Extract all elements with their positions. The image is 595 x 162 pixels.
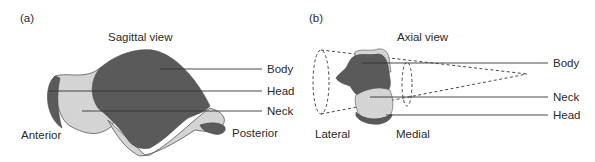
panel-b-tag: (b) xyxy=(309,13,323,25)
panel-b-label-head: Head xyxy=(553,110,581,122)
panel-b-direction-medial: Medial xyxy=(396,129,430,141)
panel-a-direction-anterior: Anterior xyxy=(21,130,61,142)
panel-a-tag: (a) xyxy=(20,13,34,25)
sagittal-bone xyxy=(47,50,225,156)
panel-a-label-head: Head xyxy=(267,86,295,98)
diagram-canvas xyxy=(0,0,595,162)
panel-b-direction-lateral: Lateral xyxy=(315,129,350,141)
panel-b-title: Axial view xyxy=(397,32,448,44)
panel-b-label-body: Body xyxy=(553,58,579,70)
panel-a-label-neck: Neck xyxy=(267,106,293,118)
panel-a-direction-posterior: Posterior xyxy=(232,128,278,140)
axial-bone xyxy=(313,49,527,124)
panel-b-label-neck: Neck xyxy=(553,92,579,104)
panel-a-label-body: Body xyxy=(267,64,293,76)
panel-a-title: Sagittal view xyxy=(108,32,173,44)
